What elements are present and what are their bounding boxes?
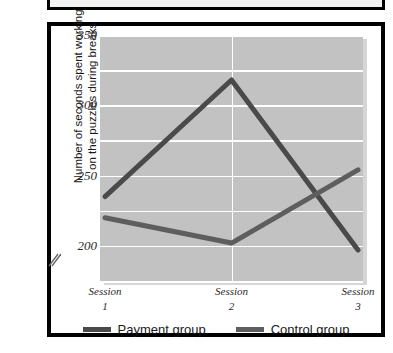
y-axis-ticks: 350 300 250 200 [51, 35, 97, 281]
legend-item-control-group: Control group [236, 322, 350, 337]
y-tick-label: 250 [78, 168, 98, 184]
x-tick-number: 1 [60, 299, 150, 314]
x-tick-label: Session 2 [187, 284, 277, 314]
x-tick-word: Session [187, 284, 277, 299]
legend-label: Control group [271, 322, 350, 337]
x-tick-word: Session [313, 284, 393, 299]
x-tick-label: Session 3 [313, 284, 393, 314]
series-lines [100, 35, 363, 281]
legend-item-payment-group: Payment group [83, 322, 206, 337]
legend-swatch-icon [83, 327, 111, 332]
plot-area [100, 35, 363, 281]
axis-break-icon [47, 251, 61, 269]
legend-label: Payment group [118, 322, 206, 337]
x-tick-label: Session 1 [60, 284, 150, 314]
series-line [105, 170, 358, 243]
gridline [100, 281, 363, 283]
x-tick-word: Session [60, 284, 150, 299]
y-tick-label: 200 [78, 238, 98, 254]
chart-figure: Number of seconds spent working on the p… [0, 0, 393, 353]
x-tick-number: 2 [187, 299, 277, 314]
y-tick-label: 350 [78, 27, 98, 43]
legend-swatch-icon [236, 327, 264, 332]
x-axis-ticks: Session 1 Session 2 Session 3 [100, 284, 363, 320]
y-tick-label: 300 [78, 97, 98, 113]
chart-legend: Payment group Control group [51, 322, 381, 337]
chart-frame: Number of seconds spent working on the p… [47, 22, 385, 337]
x-tick-number: 3 [313, 299, 393, 314]
